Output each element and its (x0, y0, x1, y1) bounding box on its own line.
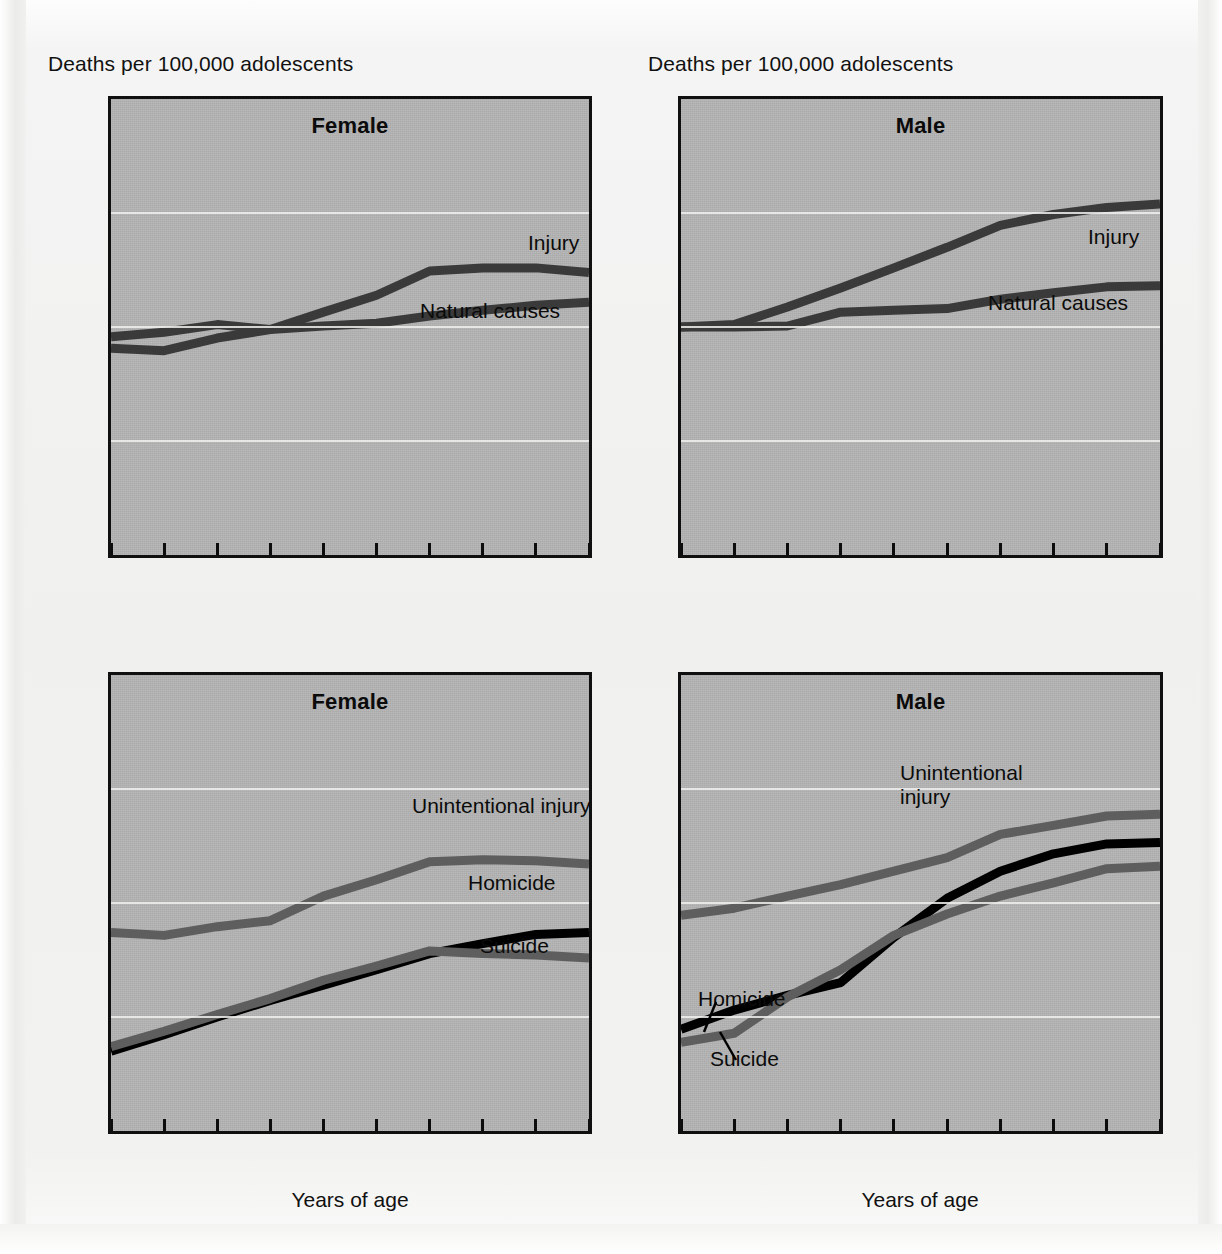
y-axis-minor-tick (108, 805, 111, 808)
gridline (111, 326, 589, 328)
y-axis-minor-tick (678, 465, 681, 468)
y-axis-minor-tick (678, 457, 681, 460)
gridline (111, 440, 589, 442)
y-axis-minor-tick (678, 271, 681, 274)
y-axis-minor-tick (108, 237, 111, 240)
y-axis-minor-tick (678, 257, 681, 260)
y-axis-minor-tick (678, 157, 681, 160)
chart-panel-female-bottom: Female 1,000100101.110111213141516171819 (108, 672, 592, 1134)
paper-edge-left (0, 0, 26, 1254)
y-axis-minor-tick (678, 947, 681, 950)
x-axis-tick (375, 1119, 378, 1132)
y-axis-header-top-left: Deaths per 100,000 adolescents (48, 52, 353, 76)
y-axis-minor-tick (108, 257, 111, 260)
y-axis-minor-tick (678, 936, 681, 939)
y-axis-minor-tick (108, 708, 111, 711)
series-line-unintentional-injury (681, 814, 1160, 915)
x-axis-tick (322, 543, 325, 556)
y-axis-minor-tick (678, 371, 681, 374)
x-axis-tick (534, 1119, 537, 1132)
y-axis-major-tick (678, 439, 681, 443)
y-axis-minor-tick (108, 223, 111, 226)
gridline (681, 326, 1160, 328)
x-axis-tick (892, 1119, 895, 1132)
y-axis-minor-tick (678, 237, 681, 240)
y-axis-minor-tick (108, 699, 111, 702)
y-axis-minor-tick (108, 177, 111, 180)
y-axis-minor-tick (108, 981, 111, 984)
x-axis-tick (839, 543, 842, 556)
y-axis-minor-tick (108, 822, 111, 825)
y-axis-minor-tick (678, 451, 681, 454)
x-axis-tick (786, 1119, 789, 1132)
y-axis-major-tick (678, 97, 681, 101)
y-axis-minor-tick (678, 474, 681, 477)
y-axis-minor-tick (108, 961, 111, 964)
y-axis-minor-tick (678, 708, 681, 711)
y-axis-minor-tick (108, 927, 111, 930)
x-axis-tick (1105, 1119, 1108, 1132)
y-axis-minor-tick (108, 337, 111, 340)
x-axis-tick (269, 543, 272, 556)
y-axis-minor-tick (678, 691, 681, 694)
y-axis-minor-tick (678, 799, 681, 802)
y-axis-minor-tick (678, 822, 681, 825)
chart-panel-female-top: Female 1,000100101.110111213141516171819 (108, 96, 592, 558)
y-axis-minor-tick (678, 132, 681, 135)
y-axis-minor-tick (108, 1050, 111, 1053)
x-axis-tick (534, 543, 537, 556)
y-axis-minor-tick (678, 360, 681, 363)
paper-edge-right (1198, 0, 1222, 1254)
y-axis-minor-tick (678, 907, 681, 910)
x-axis-tick (588, 543, 591, 556)
y-axis-minor-tick (678, 1095, 681, 1098)
y-axis-minor-tick (678, 753, 681, 756)
y-axis-minor-tick (108, 913, 111, 916)
y-axis-minor-tick (108, 719, 111, 722)
y-axis-minor-tick (108, 445, 111, 448)
y-axis-header-top-right: Deaths per 100,000 adolescents (648, 52, 953, 76)
y-axis-minor-tick (678, 927, 681, 930)
y-axis-minor-tick (108, 733, 111, 736)
x-axis-tick (110, 543, 113, 556)
y-axis-minor-tick (108, 291, 111, 294)
x-axis-tick (481, 543, 484, 556)
y-axis-minor-tick (678, 103, 681, 106)
gridline (111, 788, 589, 790)
x-axis-tick (946, 543, 949, 556)
x-axis-tick (786, 543, 789, 556)
y-axis-minor-tick (108, 919, 111, 922)
x-axis-tick (1052, 543, 1055, 556)
series-label-unintentional-injury: Unintentional injury (412, 795, 591, 817)
y-axis-minor-tick (678, 793, 681, 796)
y-axis-minor-tick (108, 157, 111, 160)
y-axis-minor-tick (108, 343, 111, 346)
x-axis-tick (216, 543, 219, 556)
y-axis-minor-tick (678, 343, 681, 346)
y-axis-major-tick (678, 901, 681, 905)
y-axis-minor-tick (678, 805, 681, 808)
y-axis-minor-tick (678, 913, 681, 916)
y-axis-minor-tick (108, 351, 111, 354)
gridline (681, 440, 1160, 442)
y-axis-minor-tick (108, 867, 111, 870)
y-axis-minor-tick (108, 103, 111, 106)
y-axis-minor-tick (678, 385, 681, 388)
x-axis-tick (892, 543, 895, 556)
y-axis-major-tick (108, 1015, 111, 1019)
y-axis-minor-tick (108, 1021, 111, 1024)
y-axis-minor-tick (108, 132, 111, 135)
x-axis-tick (1159, 1119, 1162, 1132)
y-axis-minor-tick (678, 919, 681, 922)
y-axis-minor-tick (678, 337, 681, 340)
series-label-unintentional-injury-line1: Unintentional (900, 762, 1023, 784)
x-axis-tick (163, 543, 166, 556)
y-axis-minor-tick (108, 331, 111, 334)
x-axis-tick (733, 1119, 736, 1132)
y-axis-minor-tick (108, 109, 111, 112)
gridline (681, 902, 1160, 904)
y-axis-minor-tick (678, 719, 681, 722)
y-axis-major-tick (678, 673, 681, 677)
y-axis-minor-tick (108, 799, 111, 802)
y-axis-major-tick (108, 787, 111, 791)
